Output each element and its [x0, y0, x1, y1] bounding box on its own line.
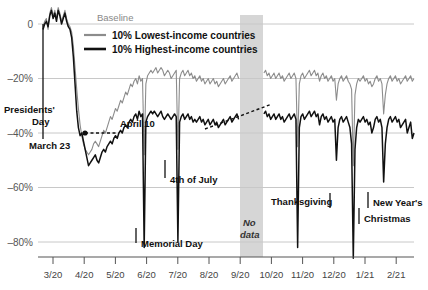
no-data-label-line1: No — [243, 217, 256, 228]
annotation-april-10: April 10 — [120, 118, 155, 129]
annotation-new-years: New Year's — [373, 197, 423, 208]
x-tick-label-0: 3/20 — [44, 269, 63, 280]
y-tick-label-2: –40% — [7, 128, 33, 139]
gridlines — [38, 24, 414, 242]
x-tick-label-7: 10/20 — [260, 269, 284, 280]
line-chart-svg: 0–20%–40%–60%–80% 3/204/205/206/207/208/… — [0, 0, 428, 290]
y-tick-label-3: –60% — [7, 182, 33, 193]
march23-marker-dot — [82, 130, 87, 135]
x-tick-label-4: 7/20 — [169, 269, 188, 280]
x-tick-label-2: 5/20 — [106, 269, 125, 280]
x-axis-labels: 3/204/205/206/207/208/209/2010/2011/2012… — [44, 269, 406, 280]
y-tick-label-1: –20% — [7, 73, 33, 84]
x-tick-label-3: 6/20 — [137, 269, 156, 280]
no-data-label-line2: data — [240, 229, 260, 240]
chart-container: 0–20%–40%–60%–80% 3/204/205/206/207/208/… — [0, 0, 428, 290]
annotation-presidents-day-line1: Presidents' — [4, 104, 55, 115]
annotation-christmas: Christmas — [364, 213, 410, 224]
x-tick-label-10: 1/21 — [356, 269, 375, 280]
annotation-memorial-day: Memorial Day — [141, 238, 203, 249]
legend-label-highest-income: 10% Highest-income countries — [112, 44, 258, 55]
annotation-march-23: March 23 — [29, 140, 70, 151]
y-tick-label-4: –80% — [7, 237, 33, 248]
x-tick-label-9: 12/20 — [322, 269, 346, 280]
x-tick-label-1: 4/20 — [75, 269, 94, 280]
annotation-presidents-day-line2: Day — [32, 116, 50, 127]
y-axis-labels: 0–20%–40%–60%–80% — [7, 19, 33, 248]
x-tick-label-6: 9/20 — [231, 269, 250, 280]
baseline-label: Baseline — [97, 12, 133, 23]
x-axis-ticks — [53, 257, 396, 264]
x-tick-label-8: 11/20 — [291, 269, 314, 280]
x-tick-label-5: 8/20 — [200, 269, 219, 280]
x-tick-label-11: 2/21 — [387, 269, 406, 280]
annotation-fourth-of-july: 4th of July — [170, 174, 218, 185]
legend-label-lowest-income: 10% Lowest-income countries — [112, 30, 256, 41]
y-tick-label-0: 0 — [27, 19, 33, 30]
annotation-thanksgiving: Thanksgiving — [271, 196, 332, 207]
legend: 10% Lowest-income countries 10% Highest-… — [84, 30, 258, 55]
